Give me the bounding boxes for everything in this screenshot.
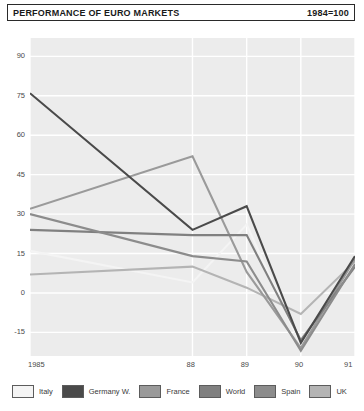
y-tick-label: 90 [3,51,25,60]
x-tick-label: 88 [187,360,195,369]
legend-color-swatch [254,385,276,398]
y-tick-label: 60 [3,130,25,139]
chart-page: PERFORMANCE OF EURO MARKETS 1984=100 907… [0,0,364,411]
page-title: PERFORMANCE OF EURO MARKETS [13,8,179,18]
legend-color-swatch [309,385,331,398]
y-tick-label: 30 [3,209,25,218]
x-tick-label: 1985 [28,360,45,369]
legend-item[interactable]: Italy [12,385,53,398]
x-tick-label: 90 [295,360,303,369]
y-tick-label: 45 [3,170,25,179]
legend-item-label: France [166,387,189,396]
legend-color-swatch [62,385,84,398]
legend-color-swatch [139,385,161,398]
y-tick-label: 15 [3,249,25,258]
x-tick-label: 89 [241,360,249,369]
chart-title-bar: PERFORMANCE OF EURO MARKETS 1984=100 [7,4,355,21]
chart-legend: ItalyGermany W.FranceWorldSpainUK [12,381,356,401]
legend-item-label: Germany W. [89,387,131,396]
y-tick-label: -15 [3,327,25,336]
line-chart-svg [30,38,355,356]
legend-item-label: UK [336,387,346,396]
plot-area [30,38,355,356]
legend-item-label: Spain [281,387,300,396]
legend-item-label: Italy [39,387,53,396]
y-tick-label: 0 [3,288,25,297]
legend-item[interactable]: France [139,385,189,398]
legend-item[interactable]: World [199,385,245,398]
legend-color-swatch [12,385,34,398]
legend-item[interactable]: Germany W. [62,385,131,398]
legend-item-label: World [226,387,245,396]
legend-item[interactable]: UK [309,385,346,398]
legend-color-swatch [199,385,221,398]
x-tick-label: 91 [344,360,352,369]
y-tick-label: 75 [3,91,25,100]
legend-item[interactable]: Spain [254,385,300,398]
index-base-note: 1984=100 [307,8,349,18]
